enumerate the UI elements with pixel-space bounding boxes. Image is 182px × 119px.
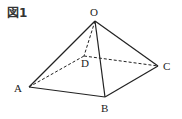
edge-oa	[29, 21, 95, 87]
pyramid-edges	[29, 21, 158, 97]
vertex-label-o: O	[90, 6, 98, 18]
pyramid-diagram: OABCD	[0, 0, 182, 119]
edge-ob	[95, 21, 105, 97]
vertex-label-b: B	[101, 102, 108, 114]
vertex-label-c: C	[163, 60, 170, 72]
edge-bc	[105, 66, 158, 97]
vertex-label-d: D	[81, 57, 89, 69]
edge-ad	[29, 56, 84, 87]
vertex-label-a: A	[14, 82, 22, 94]
edge-ab	[29, 87, 105, 97]
vertex-labels: OABCD	[14, 6, 170, 114]
